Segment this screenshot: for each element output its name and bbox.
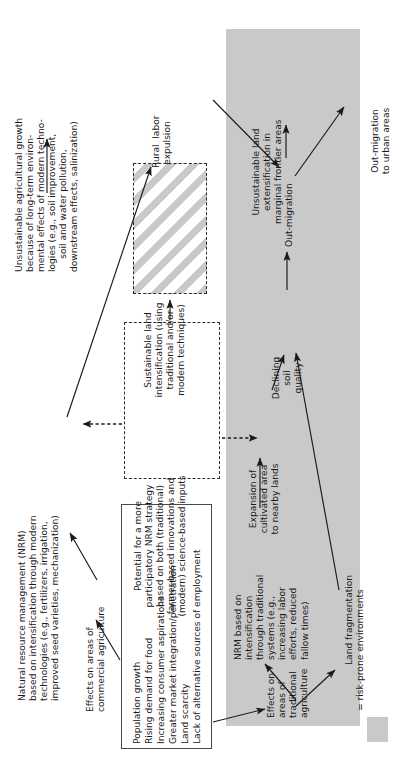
node-out-migration-urban: Out-migration to urban areas [370,103,392,179]
list-item: Population growth [132,518,143,744]
list-item: Greater market integration/penetration [168,518,179,744]
node-out-migration: Out-migration [284,157,295,247]
list-item: Rising demand for food [144,518,155,744]
diagram-canvas: Unsustainable agricultural growth becaus… [0,0,409,764]
node-rural-labor-expulsion: Rural labor expulsion [151,118,173,168]
node-land-fragmentation: Land fragmentation [344,555,355,665]
node-effects-commercial-agriculture: Effects on areas of commercial agricultu… [85,640,107,712]
node-nrm-traditional: NRM based on intensification through tra… [233,550,311,660]
list-item: Land scarcity [180,518,191,744]
list-item: Lack of alternative sources of employmen… [192,518,203,744]
node-unsustainable-ag-growth: Unsustainable agricultural growth becaus… [14,136,81,272]
node-nrm-modern: Natural resource management (NRM) based … [17,536,61,701]
legend-swatch [367,717,388,742]
node-expansion-cultivated-area: Expansion of cultivated area to nearby l… [248,452,281,546]
list-item: Increasing consumer aspirations [156,518,167,744]
node-sustainable-land-intensification: Sustainable land intensification (using … [143,289,187,411]
sustainable-intensification-box [133,163,207,294]
node-declining-soil-quality: Declining soil quality [271,349,304,407]
legend-label: = risk-prone environments [355,561,366,711]
node-unsustainable-extensification: Unsustainable land extensification in ma… [251,120,284,224]
